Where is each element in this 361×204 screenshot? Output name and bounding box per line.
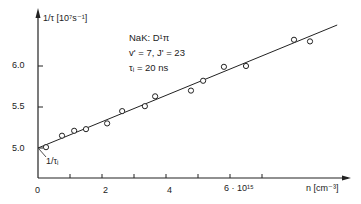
data-point-circle bbox=[120, 109, 125, 114]
y-tick-label-6: 6.0 bbox=[12, 60, 25, 70]
x-axis-arrow-icon bbox=[342, 176, 351, 181]
y-tick-label-55: 5.5 bbox=[12, 101, 25, 111]
data-point-circle bbox=[188, 88, 193, 93]
data-point-circle bbox=[43, 145, 48, 150]
intercept-label: 1/τᵢ bbox=[46, 156, 58, 166]
data-point-circle bbox=[153, 94, 158, 99]
data-point-circle bbox=[105, 121, 110, 126]
x-axis-label: n [cm⁻³] bbox=[306, 183, 339, 193]
annotation-molecule: NaK: D¹π bbox=[129, 32, 170, 43]
data-point-circle bbox=[221, 64, 226, 69]
data-point-circle bbox=[243, 63, 248, 68]
y-axis-label: 1/τ [10⁷s⁻¹] bbox=[43, 13, 87, 23]
fit-line bbox=[38, 25, 337, 148]
intercept-pointer bbox=[39, 149, 46, 157]
data-point-circle bbox=[142, 104, 147, 109]
y-axis-arrow-icon bbox=[36, 8, 41, 18]
data-point-circle bbox=[291, 37, 296, 42]
x-tick-label-6: 6 · 10¹⁵ bbox=[224, 183, 254, 193]
data-point-circle bbox=[201, 78, 206, 83]
annotation-levels: v' = 7, J' = 23 bbox=[129, 47, 185, 58]
y-ticks bbox=[38, 66, 43, 148]
data-point-circle bbox=[83, 127, 88, 132]
y-tick-label-5: 5.0 bbox=[12, 143, 25, 153]
annotation-tau: τᵢ = 20 ns bbox=[129, 62, 169, 73]
data-point-circle bbox=[307, 39, 312, 44]
data-point-circle bbox=[59, 133, 64, 138]
data-point-circle bbox=[72, 128, 77, 133]
chart: 0 2 4 6 · 10¹⁵ n [cm⁻³] 6.0 5.5 5.0 1/τ … bbox=[0, 0, 361, 204]
x-tick-label-4: 4 bbox=[167, 185, 172, 195]
x-tick-label-0: 0 bbox=[35, 185, 40, 195]
x-tick-label-2: 2 bbox=[103, 185, 108, 195]
